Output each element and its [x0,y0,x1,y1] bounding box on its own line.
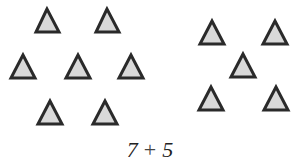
left-operand: 7 [127,137,138,162]
left-triangle-group [11,9,143,124]
triangle-icon [200,21,224,44]
plus-operator: + [144,137,156,162]
triangle-icon [264,87,288,110]
triangle-icon [11,55,35,78]
triangle-icon [119,55,143,78]
triangle-icon [93,101,117,124]
right-operand: 5 [162,137,173,162]
triangle-icon [199,87,223,110]
addition-expression: 7+5 [0,139,300,161]
triangle-icon [36,9,59,32]
triangle-icon [96,9,119,32]
right-triangle-group [199,21,288,110]
triangle-icon [231,54,255,77]
triangle-icon [263,21,287,44]
triangle-icon [66,55,90,78]
triangle-icon [38,101,62,124]
